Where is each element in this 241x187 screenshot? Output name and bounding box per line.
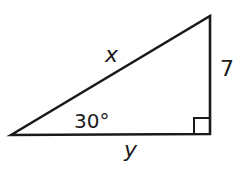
angle-label: 30° xyxy=(74,109,109,133)
vertical-leg-label: 7 xyxy=(220,56,234,81)
triangle-shape xyxy=(11,16,210,135)
hypotenuse-label: x xyxy=(104,42,119,67)
triangle-diagram: x 7 30° y xyxy=(0,0,241,187)
right-angle-marker xyxy=(194,118,210,134)
horizontal-leg-label: y xyxy=(123,137,138,162)
